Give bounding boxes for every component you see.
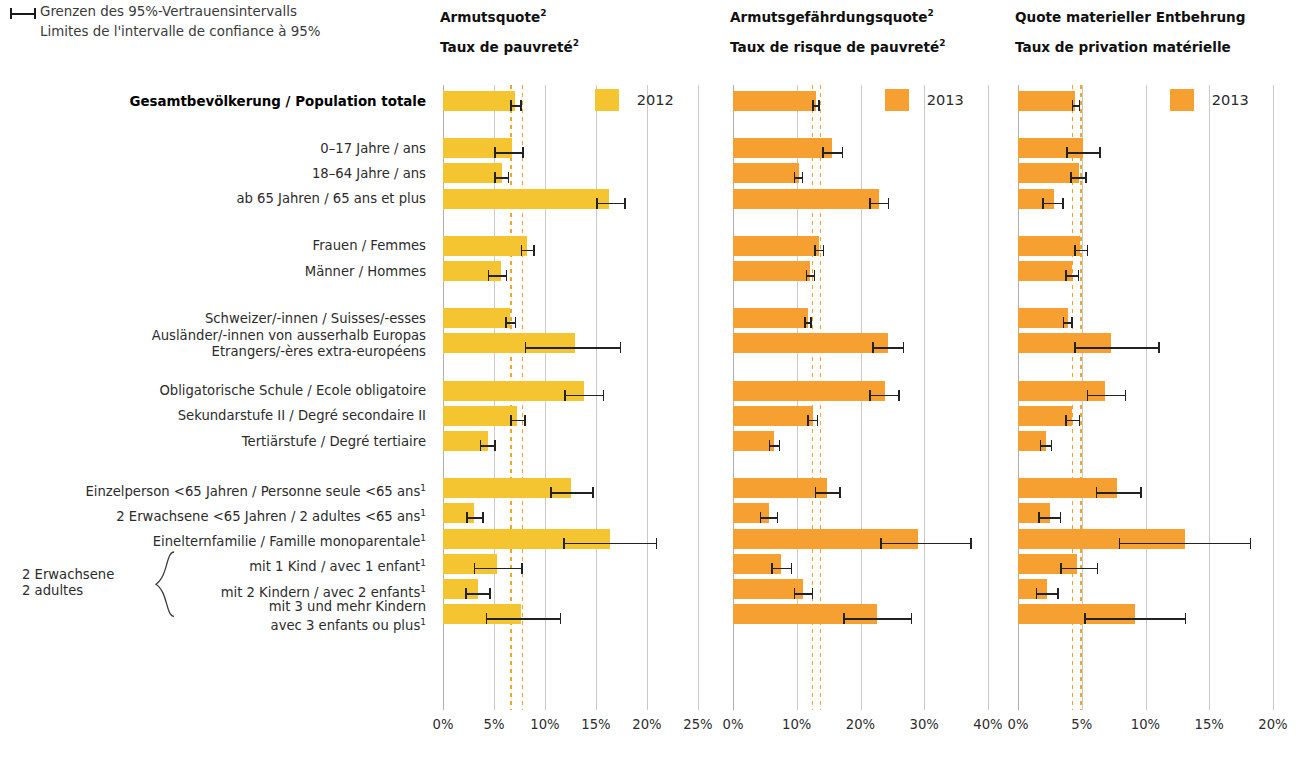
x-tick-label-4: 20% [1258,717,1287,732]
error-bar-row-16 [1084,613,1186,624]
error-bar-row-10 [480,440,496,451]
bar-row-0 [443,91,515,111]
row-label-line: mit 1 Kind / avec 1 enfant1 [249,556,426,575]
error-bar-row-11 [1096,487,1142,498]
row-label-footnote: 1 [420,558,426,568]
error-bar-row-13 [1119,538,1252,549]
error-bar-row-9 [807,415,818,426]
bar-row-9 [733,406,813,426]
row-label-15: mit 2 Kindern / avec 2 enfants1 [221,582,426,601]
error-bar-row-16 [843,613,912,624]
row-label-line: Etrangers/-ères extra-européens [152,344,426,360]
panel-title-de: Armutsquote [440,9,540,25]
row-label-line: 18–64 Jahre / ans [312,166,426,182]
panel-title-fr: Taux de privation matérielle [1015,38,1231,54]
error-bar-row-14 [474,563,523,574]
error-bar-row-3 [1042,198,1064,209]
row-label-footnote: 1 [420,533,426,543]
error-bar-row-10 [769,440,780,451]
row-label-footnote: 1 [420,584,426,594]
error-bar-row-4 [521,245,535,256]
row-label-line: ab 65 Jahren / 65 ans et plus [236,191,426,207]
panel-title-armutsgefaehrdungsquote: Armutsgefährdungsquote2 Taux de risque d… [730,0,945,59]
chart-panel-armutsquote: 0%5%10%15%20%25%2012 [443,85,698,725]
panel-title-armutsquote: Armutsquote2 Taux de pauvreté2 [440,0,579,59]
error-bar-row-5 [806,270,816,281]
error-bar-row-11 [550,487,594,498]
chart-panel-quote-materieller-entbehrung: 0%5%10%15%20%2013 [1018,85,1273,725]
error-bar-row-7 [1074,342,1159,353]
chart-panel-armutsgefaehrdungsquote: 0%10%20%30%40%2013 [733,85,988,725]
panel-title-de-footnote: 2 [540,8,546,18]
legend-year-label: 2012 [637,91,674,108]
bar-row-2 [733,163,799,183]
row-label-footnote: 1 [420,617,426,627]
row-label-line: mit 3 und mehr Kindern [269,599,426,615]
row-label-line: Sekundarstufe II / Degré secondaire II [178,408,426,424]
x-tick-label-0: 0% [723,717,744,732]
error-bar-row-13 [880,538,972,549]
error-bar-row-12 [760,512,778,523]
x-tick-label-4: 40% [973,717,1002,732]
bar-row-8 [443,381,584,401]
error-bar-row-15 [465,588,491,599]
x-tick-label-3: 15% [581,717,610,732]
x-tick-label-2: 20% [846,717,875,732]
row-label-line: Männer / Hommes [305,264,426,280]
error-bar-row-5 [1065,270,1079,281]
row-label-line: Schweizer/-innen / Suisses/-esses [205,311,426,327]
error-bar-row-0 [1072,100,1081,111]
x-tick-label-1: 5% [1071,717,1092,732]
legend-year-label: 2013 [927,91,964,108]
legend-swatch-2013 [885,89,909,111]
row-label-8: Obligatorische Schule / Ecole obligatoir… [159,383,426,399]
row-label-line: Einzelperson <65 Jahren / Personne seule… [85,481,426,500]
panel-title-de: Armutsgefährdungsquote [730,9,927,25]
x-tick-label-0: 0% [1008,717,1029,732]
bar-row-8 [733,381,885,401]
error-bar-row-5 [488,270,507,281]
error-bar-row-1 [494,147,524,158]
legend-swatch-2013 [1170,89,1194,111]
error-bar-row-6 [804,317,812,328]
bar-row-5 [733,261,810,281]
error-bar-row-9 [1065,415,1080,426]
legend-swatch-2012 [595,89,619,111]
error-bar-row-13 [563,538,657,549]
ci-legend-label-fr: Limites de l'intervalle de confiance à 9… [40,22,321,42]
x-tick-label-3: 30% [910,717,939,732]
category-axis-labels: Gesamtbevölkerung / Population totale0–1… [0,85,436,725]
plot-area [443,85,698,710]
error-bar-row-0 [510,100,521,111]
row-label-4: Frauen / Femmes [313,238,426,254]
row-label-13: Einelternfamilie / Famille monoparentale… [153,531,426,550]
plot-area [733,85,988,710]
gridline-30 [924,85,925,710]
bar-row-4 [1018,236,1080,256]
row-label-3: ab 65 Jahren / 65 ans et plus [236,191,426,207]
x-tick-label-1: 5% [484,717,505,732]
error-bar-row-1 [822,147,843,158]
row-label-line: Einelternfamilie / Famille monoparentale… [153,531,426,550]
x-tick-label-5: 25% [683,717,712,732]
row-label-line: 0–17 Jahre / ans [320,141,426,157]
panel-title-fr-footnote: 2 [939,38,945,48]
error-bar-row-0 [812,100,820,111]
bar-row-6 [1018,308,1068,328]
error-bar-row-7 [872,342,905,353]
error-bar-row-3 [596,198,626,209]
ci-legend-label-de: Grenzen des 95%-Vertrauensintervalls [40,2,321,22]
error-bar-row-6 [505,317,516,328]
error-bar-row-8 [869,390,900,401]
bar-row-6 [733,308,808,328]
brace-icon [152,550,178,618]
row-label-line: Frauen / Femmes [313,238,426,254]
row-label-line: Ausländer/-innen von ausserhalb Europas [152,328,426,344]
error-bar-row-16 [486,613,561,624]
bar-row-3 [733,189,879,209]
row-label-11: Einzelperson <65 Jahren / Personne seule… [85,481,426,500]
error-bar-row-8 [564,390,604,401]
row-label-footnote: 1 [420,483,426,493]
panel-title-fr-footnote: 2 [573,38,579,48]
bar-row-11 [733,478,827,498]
